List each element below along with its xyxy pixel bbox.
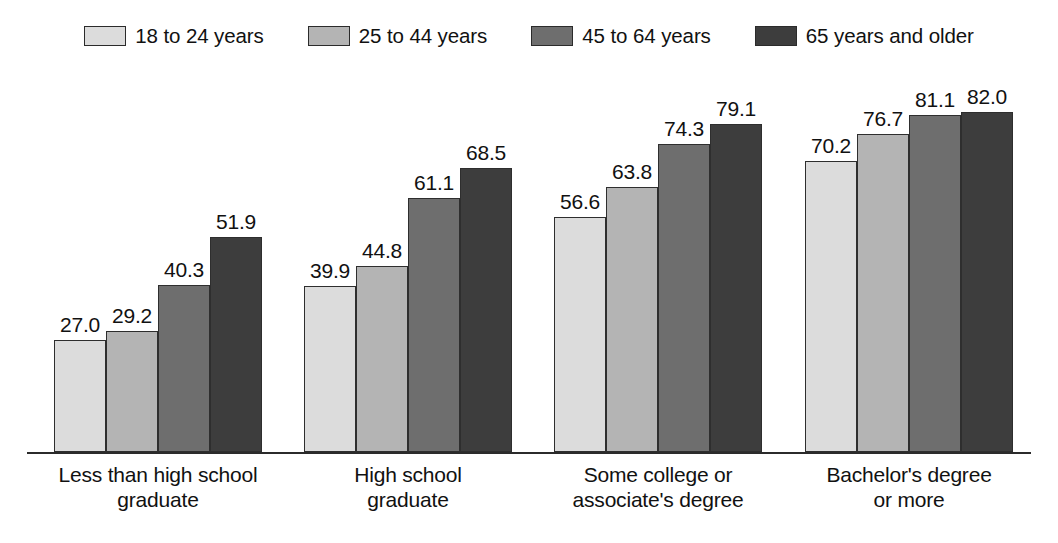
bar-item[interactable]: 56.6	[554, 217, 606, 452]
bar-value-label: 40.3	[164, 258, 204, 282]
bar-item[interactable]: 76.7	[857, 134, 909, 452]
bar-rect[interactable]	[857, 134, 909, 452]
bar-item[interactable]: 27.0	[54, 340, 106, 452]
bar-value-label: 79.1	[716, 97, 756, 121]
category-label: Some college orassociate's degree	[554, 462, 762, 512]
bar-rect[interactable]	[606, 187, 658, 452]
bar-item[interactable]: 68.5	[460, 168, 512, 452]
category-label-line: graduate	[54, 487, 262, 512]
bar-value-label: 39.9	[310, 259, 350, 283]
category-label-line: Some college or	[554, 462, 762, 487]
bar-rect[interactable]	[210, 237, 262, 452]
category-label: High schoolgraduate	[304, 462, 512, 512]
bar-item[interactable]: 63.8	[606, 187, 658, 452]
bar-item[interactable]: 29.2	[106, 331, 158, 452]
bar-rect[interactable]	[909, 115, 961, 452]
bar-value-label: 68.5	[466, 141, 506, 165]
bar-value-label: 82.0	[967, 85, 1007, 109]
bar-value-label: 29.2	[112, 304, 152, 328]
bar-value-label: 70.2	[811, 134, 851, 158]
bar-rect[interactable]	[460, 168, 512, 452]
bar-rect[interactable]	[106, 331, 158, 452]
category-label-line: Bachelor's degree	[805, 462, 1013, 487]
bar-rect[interactable]	[805, 161, 857, 452]
bar-item[interactable]: 74.3	[658, 144, 710, 452]
bar-item[interactable]: 81.1	[909, 115, 961, 452]
bar-value-label: 61.1	[414, 171, 454, 195]
bar-value-label: 63.8	[612, 160, 652, 184]
bar-rect[interactable]	[54, 340, 106, 452]
bar-chart-plot-area: 27.029.240.351.939.944.861.168.556.663.8…	[0, 0, 1058, 543]
bar-value-label: 51.9	[216, 210, 256, 234]
category-label: Less than high schoolgraduate	[54, 462, 262, 512]
bar-rect[interactable]	[304, 286, 356, 452]
category-label-line: Less than high school	[54, 462, 262, 487]
bar-value-label: 74.3	[664, 117, 704, 141]
category-label-line: graduate	[304, 487, 512, 512]
category-label-line: or more	[805, 487, 1013, 512]
bar-rect[interactable]	[658, 144, 710, 452]
bar-value-label: 76.7	[863, 107, 903, 131]
bar-rect[interactable]	[356, 266, 408, 452]
category-label: Bachelor's degreeor more	[805, 462, 1013, 512]
bar-item[interactable]: 39.9	[304, 286, 356, 452]
category-label-line: associate's degree	[554, 487, 762, 512]
bar-rect[interactable]	[710, 124, 762, 452]
bar-item[interactable]: 61.1	[408, 198, 460, 452]
bar-rect[interactable]	[961, 112, 1013, 452]
bar-value-label: 27.0	[60, 313, 100, 337]
bar-rect[interactable]	[158, 285, 210, 452]
bar-value-label: 56.6	[560, 190, 600, 214]
bar-item[interactable]: 44.8	[356, 266, 408, 452]
bar-value-label: 81.1	[915, 88, 955, 112]
bar-value-label: 44.8	[362, 239, 402, 263]
bar-item[interactable]: 51.9	[210, 237, 262, 452]
bar-rect[interactable]	[408, 198, 460, 452]
bar-item[interactable]: 70.2	[805, 161, 857, 452]
bar-item[interactable]: 40.3	[158, 285, 210, 452]
category-label-line: High school	[304, 462, 512, 487]
bar-item[interactable]: 79.1	[710, 124, 762, 452]
bar-rect[interactable]	[554, 217, 606, 452]
bar-item[interactable]: 82.0	[961, 112, 1013, 452]
